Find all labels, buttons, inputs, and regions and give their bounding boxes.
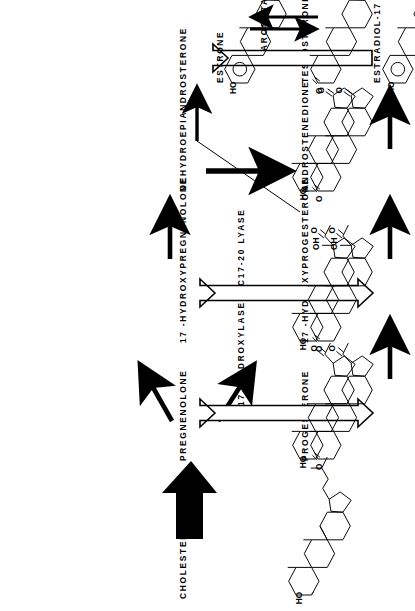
atom-label-oh: OH xyxy=(312,237,321,249)
enzyme-arrow-lyase xyxy=(200,279,373,307)
atom-label-o: O xyxy=(315,195,324,202)
atom-label-o: O xyxy=(328,226,337,233)
pathway-vectors: HO O HO O OH HO xyxy=(0,0,415,611)
atom-label-ho: HO xyxy=(299,187,308,200)
arrow-pregnenolone-to-hydroxypregnenolone xyxy=(142,368,172,421)
structure-testosterone: OH O xyxy=(310,0,373,94)
structure-dhea: O HO xyxy=(292,86,355,200)
structure-estrone: O HO xyxy=(225,0,288,94)
atom-label-ho: HO xyxy=(299,337,308,350)
atom-label-oh: OH xyxy=(330,237,339,249)
atom-label-ho: HO xyxy=(229,81,238,94)
atom-label-ho: HO xyxy=(387,81,396,94)
structure-estradiol: OH HO xyxy=(383,0,415,94)
atom-label-o: O xyxy=(328,344,337,351)
structure-cholesterol: HO xyxy=(288,457,351,604)
pathway-figure: CHOLESTEROL PREGNENOLONE 17 -HYDROXYPREG… xyxy=(0,0,415,611)
arrow-androstenedione-to-estrone xyxy=(197,90,300,212)
atom-label-ho: HO xyxy=(299,455,308,468)
enzyme-arrow-aromatase xyxy=(213,44,372,72)
atom-label-o: O xyxy=(335,86,344,93)
pathway-canvas: CHOLESTEROL PREGNENOLONE 17 -HYDROXYPREG… xyxy=(0,0,415,611)
atom-label-o: O xyxy=(310,226,319,233)
atom-label-ho: HO xyxy=(295,591,304,604)
atom-label-o: O xyxy=(315,463,324,470)
atom-label-o: O xyxy=(315,87,324,94)
arrow-cholesterol-to-pregnenolone xyxy=(162,461,217,539)
atom-label-o: O xyxy=(315,345,324,352)
